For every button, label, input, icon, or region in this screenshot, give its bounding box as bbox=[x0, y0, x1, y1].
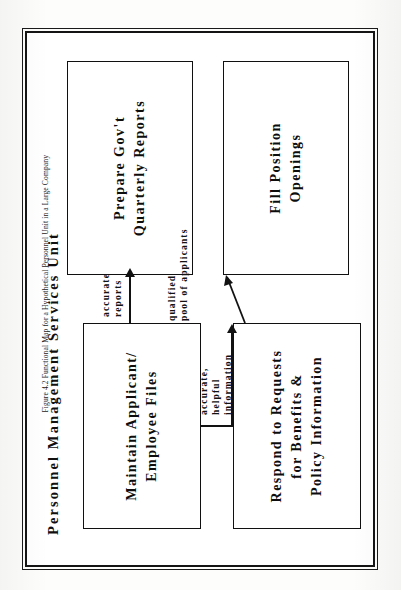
connector-maintain-to-respond-stem bbox=[201, 425, 233, 427]
connector-label-helpful-information: accurate, helpful information bbox=[199, 354, 235, 415]
figure-caption-text: Figure 4.2 Functional Map for a Hypothet… bbox=[41, 163, 50, 413]
process-box-label: Maintain Applicant/ Employee Files bbox=[121, 345, 162, 506]
process-box-respond-requests[interactable]: Respond to Requests for Benefits & Polic… bbox=[233, 323, 361, 529]
process-box-fill-positions[interactable]: Fill Position Openings bbox=[223, 61, 349, 275]
figure-border-frame: Personnel Management Services Unit Maint… bbox=[25, 31, 375, 567]
connector-label-qualified-applicants: qualified pool of applicants bbox=[167, 229, 191, 322]
process-box-label: Respond to Requests for Benefits & Polic… bbox=[266, 344, 327, 509]
arrowhead-right-icon bbox=[226, 324, 236, 333]
connector-label-accurate-reports: accurate reports bbox=[101, 273, 125, 317]
scanned-page: Personnel Management Services Unit Maint… bbox=[0, 0, 401, 590]
figure-caption: Figure 4.2 Functional Map for a Hypothet… bbox=[41, 163, 50, 413]
figure-canvas: Personnel Management Services Unit Maint… bbox=[15, 15, 387, 575]
process-box-label: Prepare Gov't Quarterly Reports bbox=[109, 94, 150, 242]
process-box-maintain-files[interactable]: Maintain Applicant/ Employee Files bbox=[83, 323, 201, 529]
process-box-label: Fill Position Openings bbox=[265, 116, 306, 219]
